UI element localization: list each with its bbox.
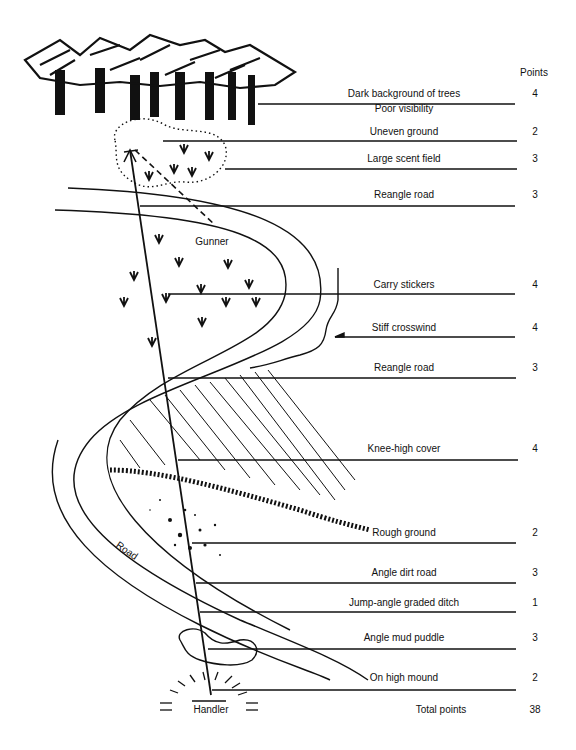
factor-label: Reangle road <box>374 189 434 200</box>
factor-points: 4 <box>532 322 538 333</box>
total-value: 38 <box>529 704 540 715</box>
factor-label: Angle dirt road <box>371 567 436 578</box>
factor-label: Carry stickers <box>373 279 434 290</box>
factor-label: Poor visibility <box>375 103 433 114</box>
factor-label: Knee-high cover <box>368 443 441 454</box>
factor-points: 3 <box>532 632 538 643</box>
factor-points: 2 <box>532 126 538 137</box>
factor-label: Jump-angle graded ditch <box>349 597 459 608</box>
factor-label: Reangle road <box>374 362 434 373</box>
factor-points: 3 <box>532 153 538 164</box>
total-label: Total points <box>416 704 467 715</box>
trees <box>55 68 255 125</box>
factor-points: 3 <box>532 567 538 578</box>
factor-points: 2 <box>532 672 538 683</box>
factor-label: Uneven ground <box>370 126 438 137</box>
factor-label: Dark background of trees <box>348 88 460 99</box>
factor-points: 4 <box>532 88 538 99</box>
retrieve-diagram <box>0 0 576 750</box>
factor-label: Stiff crosswind <box>372 322 436 333</box>
gunner-label: Gunner <box>195 236 228 247</box>
factor-label: Large scent field <box>367 153 440 164</box>
factor-label: Rough ground <box>372 527 435 538</box>
factor-points: 3 <box>532 362 538 373</box>
factor-label: Angle mud puddle <box>364 632 445 643</box>
factor-points: 2 <box>532 527 538 538</box>
points-header: Points <box>520 67 548 78</box>
factor-points: 1 <box>532 597 538 608</box>
factor-points: 4 <box>532 279 538 290</box>
factor-points: 4 <box>532 443 538 454</box>
factor-points: 3 <box>532 189 538 200</box>
factor-label: On high mound <box>370 672 438 683</box>
handler-label: Handler <box>193 704 228 715</box>
